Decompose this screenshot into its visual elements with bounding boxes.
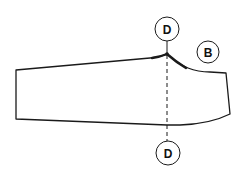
marker-piece: B bbox=[197, 41, 219, 63]
marker-bottom: D bbox=[156, 141, 180, 165]
marker-top: D bbox=[155, 17, 179, 41]
pattern-diagram: D B D bbox=[0, 0, 242, 175]
marker-piece-label: B bbox=[204, 46, 213, 60]
marker-bottom-label: D bbox=[164, 147, 173, 161]
marker-top-label: D bbox=[163, 23, 172, 37]
pattern-outline bbox=[16, 54, 230, 125]
emphasized-seam bbox=[152, 54, 186, 68]
